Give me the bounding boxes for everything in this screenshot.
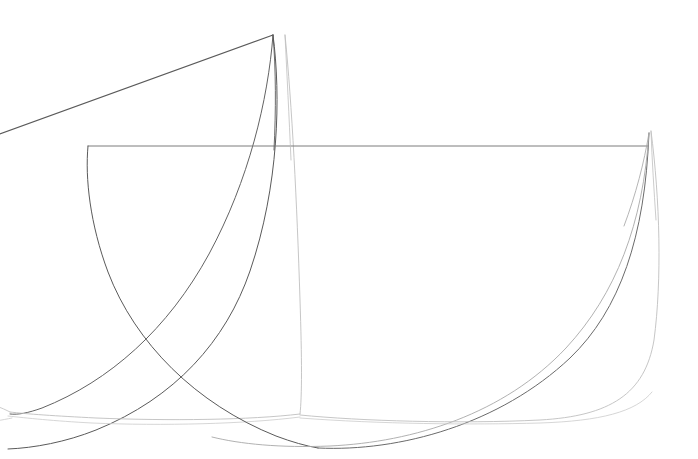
drawing-canvas — [0, 0, 698, 459]
line-art-figure — [0, 0, 698, 459]
canvas-background — [0, 0, 698, 459]
